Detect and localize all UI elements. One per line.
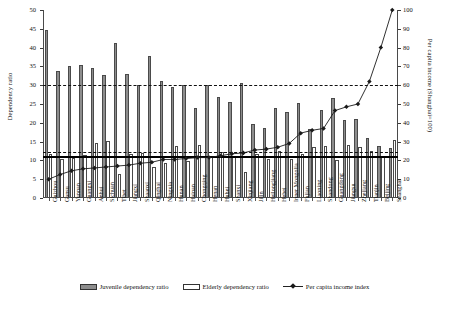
y-tick-mark-right-30 xyxy=(398,142,401,143)
x-tick-label-anhui: Anhui xyxy=(97,187,104,202)
x-tick-mark xyxy=(95,198,96,201)
income-line-marker xyxy=(127,163,132,168)
x-tick-label-henan: Henan xyxy=(211,186,218,202)
x-tick-mark xyxy=(83,198,84,201)
income-line-marker xyxy=(356,102,361,107)
y-tick-label-right-60: 60 xyxy=(403,81,421,88)
x-tick-mark xyxy=(312,198,313,201)
y-tick-mark-right-40 xyxy=(398,123,401,124)
x-tick-mark xyxy=(324,198,325,201)
x-tick-mark xyxy=(209,198,210,201)
y-tick-label-right-0: 0 xyxy=(403,194,421,201)
x-tick-label-guangdong: Guangdong xyxy=(337,173,344,202)
x-tick-label-ningxia: Ningxia xyxy=(166,182,173,202)
x-tick-label-qinghai: Qinghai xyxy=(154,182,161,202)
x-tick-mark xyxy=(140,198,141,201)
x-tick-mark xyxy=(369,198,370,201)
y-tick-label-left-45: 45 xyxy=(20,25,36,32)
y-tick-mark-right-60 xyxy=(398,85,401,86)
x-tick-mark xyxy=(278,198,279,201)
income-line-marker xyxy=(390,8,395,13)
y-tick-label-right-40: 40 xyxy=(403,119,421,126)
x-tick-label-guizhou: Guizhou xyxy=(51,181,58,202)
income-line-marker xyxy=(104,165,109,170)
x-tick-label-sichuan: Sichuan xyxy=(108,182,115,202)
y-tick-mark-right-100 xyxy=(398,10,401,11)
income-line-marker xyxy=(344,105,349,110)
y-tick-mark-right-20 xyxy=(398,160,401,161)
income-line-marker xyxy=(241,151,246,156)
income-line-marker xyxy=(264,147,269,152)
white-bar-swatch-icon xyxy=(183,284,200,290)
x-tick-label-tibet: Tibet xyxy=(120,189,127,202)
income-line-marker xyxy=(184,156,189,161)
y-tick-label-right-20: 20 xyxy=(403,156,421,163)
income-line-marker xyxy=(230,152,235,157)
x-tick-label-zhejiang: Zhejiang xyxy=(360,180,367,202)
chart-legend: Juvenile dependency ratio Elderly depend… xyxy=(0,283,449,290)
y-tick-label-right-100: 100 xyxy=(403,6,421,13)
x-tick-label-yunnan: Yunnan xyxy=(74,183,81,202)
x-tick-mark xyxy=(346,198,347,201)
income-line-marker xyxy=(115,164,120,169)
x-tick-label-shanghai: Shanghai xyxy=(395,179,402,202)
x-tick-label-chongqing: Chongqing xyxy=(200,174,207,202)
income-line-marker xyxy=(367,79,372,84)
y-tick-label-left-20: 20 xyxy=(20,119,36,126)
x-tick-label-jiangsu: Jiangsu xyxy=(349,183,356,202)
plot-area xyxy=(43,10,398,198)
income-line-marker xyxy=(81,167,86,172)
x-tick-mark xyxy=(266,198,267,201)
y-tick-label-left-35: 35 xyxy=(20,62,36,69)
y-axis-left-title: Dependency ratio xyxy=(6,57,13,137)
x-tick-mark xyxy=(60,198,61,201)
x-tick-label-beijing: Beijing xyxy=(383,184,390,202)
x-tick-label-shandong: Shandong xyxy=(326,177,333,202)
y-tick-label-right-70: 70 xyxy=(403,62,421,69)
x-tick-mark xyxy=(335,198,336,201)
x-tick-mark xyxy=(152,198,153,201)
income-line-marker xyxy=(58,172,63,177)
x-tick-label-hunan: Hunan xyxy=(177,186,184,203)
gray-bar-swatch-icon xyxy=(80,284,97,290)
y-tick-label-right-30: 30 xyxy=(403,138,421,145)
y-tick-mark-right-50 xyxy=(398,104,401,105)
legend-item-juvenile: Juvenile dependency ratio xyxy=(80,283,169,290)
x-tick-label-fujian: Fujian xyxy=(303,186,310,202)
x-tick-mark xyxy=(49,198,50,201)
x-tick-mark xyxy=(175,198,176,201)
x-tick-label-shaanxi: Shaanxi xyxy=(143,182,150,202)
income-line-marker xyxy=(138,161,143,166)
y-tick-label-left-5: 5 xyxy=(20,175,36,182)
x-tick-mark xyxy=(289,198,290,201)
x-tick-mark xyxy=(232,198,233,201)
x-tick-label-liaoning: Liaoning xyxy=(315,180,322,202)
income-line-marker xyxy=(92,166,97,171)
y-tick-label-left-0: 0 xyxy=(20,194,36,201)
income-line-marker xyxy=(310,128,315,133)
y-tick-label-left-30: 30 xyxy=(20,81,36,88)
income-line-marker xyxy=(207,155,212,160)
y-tick-mark-right-80 xyxy=(398,48,401,49)
per-capita-income-line xyxy=(43,10,398,198)
x-tick-mark xyxy=(255,198,256,201)
y-tick-label-left-50: 50 xyxy=(20,6,36,13)
legend-label-juvenile: Juvenile dependency ratio xyxy=(100,283,169,290)
income-line-marker xyxy=(333,108,338,113)
x-tick-label-hubei: Hubei xyxy=(223,187,230,202)
x-tick-mark xyxy=(129,198,130,201)
chart-figure: Dependency ratio Per capita income (Shan… xyxy=(0,0,449,309)
x-tick-label-shanxi: Shanxi xyxy=(234,185,241,202)
income-line-marker xyxy=(69,168,74,173)
income-line-marker xyxy=(218,153,223,158)
legend-item-income: Per capita income index xyxy=(283,283,370,290)
y-axis-right-title: Per capita income (Shanghai=100) xyxy=(427,26,434,146)
x-tick-mark xyxy=(186,198,187,201)
income-line-marker xyxy=(150,160,155,165)
income-line-marker xyxy=(253,148,258,153)
x-tick-label-jilin: Jilin xyxy=(257,191,264,202)
x-tick-mark xyxy=(381,198,382,201)
y-tick-label-right-50: 50 xyxy=(403,100,421,107)
income-line-marker xyxy=(379,45,384,50)
legend-item-elderly: Elderly dependency ratio xyxy=(183,283,269,290)
